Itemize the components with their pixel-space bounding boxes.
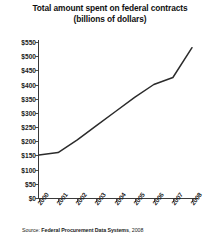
- y-tick-mark: [35, 85, 38, 86]
- data-line-series: [0, 0, 213, 240]
- source-label: Source:: [22, 227, 40, 233]
- plot-area: 200020012002200320042005200620072008: [0, 0, 213, 240]
- source-note: Source: Federal Procurement Data Systems…: [22, 227, 143, 233]
- y-tick-mark: [35, 56, 38, 57]
- source-value: Federal Procurement Data Systems: [41, 227, 129, 233]
- y-tick-mark: [35, 70, 38, 71]
- source-tail: , 2008: [129, 227, 143, 233]
- y-tick-mark: [35, 170, 38, 171]
- y-tick-mark: [35, 184, 38, 185]
- y-tick-mark: [35, 42, 38, 43]
- y-tick-mark: [35, 113, 38, 114]
- y-tick-mark: [35, 99, 38, 100]
- y-tick-mark: [35, 141, 38, 142]
- y-tick-mark: [35, 127, 38, 128]
- chart-figure: Total amount spent on federal contracts …: [0, 0, 213, 240]
- y-tick-mark: [35, 155, 38, 156]
